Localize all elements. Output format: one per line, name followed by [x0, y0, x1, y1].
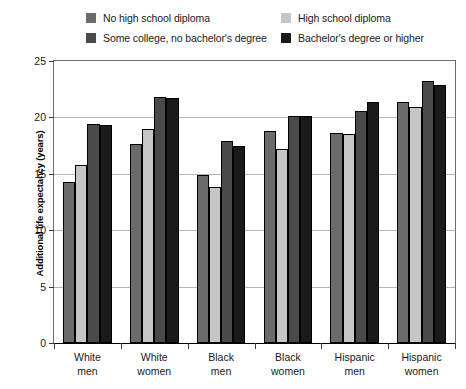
bar[interactable]	[154, 97, 166, 343]
bar[interactable]	[75, 165, 87, 343]
bar[interactable]	[63, 182, 75, 343]
y-tick-label: 5	[40, 281, 46, 293]
x-tick-mark	[54, 343, 55, 349]
bar[interactable]	[142, 129, 154, 343]
x-category-label: Hispanicwomen	[388, 351, 455, 378]
bar[interactable]	[397, 102, 409, 343]
x-tick-mark	[188, 343, 189, 349]
bar-group	[121, 61, 188, 343]
bar[interactable]	[233, 146, 245, 343]
x-tick-mark	[321, 343, 322, 349]
bar[interactable]	[197, 175, 209, 343]
y-tick-label: 10	[34, 224, 46, 236]
bar[interactable]	[288, 116, 300, 343]
y-tick-label: 15	[34, 168, 46, 180]
bar[interactable]	[422, 81, 434, 343]
bar[interactable]	[355, 111, 367, 343]
x-category-label: Blackwomen	[255, 351, 322, 378]
y-axis-title: Additional life expectancy (years)	[34, 69, 45, 339]
bar[interactable]	[166, 98, 178, 343]
bar[interactable]	[330, 133, 342, 343]
x-category-label: Whitewomen	[121, 351, 188, 378]
bar-group	[388, 61, 455, 343]
x-tick-mark	[121, 343, 122, 349]
bar[interactable]	[409, 107, 421, 343]
bar-group	[54, 61, 121, 343]
x-tick-mark	[455, 343, 456, 349]
bar[interactable]	[367, 102, 379, 343]
bar[interactable]	[130, 144, 142, 343]
bar[interactable]	[221, 141, 233, 343]
grouped-bar-chart: Additional life expectancy (years) 05101…	[0, 0, 466, 389]
bar[interactable]	[300, 116, 312, 343]
plot-area: 0510152025 WhitemenWhitewomenBlackmenBla…	[53, 60, 456, 344]
bar-group	[188, 61, 255, 343]
bar[interactable]	[264, 131, 276, 343]
x-tick-mark	[388, 343, 389, 349]
bar[interactable]	[276, 149, 288, 343]
bar[interactable]	[87, 124, 99, 343]
bar[interactable]	[434, 85, 446, 343]
bar[interactable]	[343, 134, 355, 343]
bar-series-container	[54, 61, 455, 343]
x-category-label: Hispanicmen	[321, 351, 388, 378]
x-category-label: Whitemen	[54, 351, 121, 378]
bar-group	[255, 61, 322, 343]
y-tick-label: 0	[40, 337, 46, 349]
x-tick-mark	[255, 343, 256, 349]
x-category-label: Blackmen	[188, 351, 255, 378]
y-tick-label: 25	[34, 55, 46, 67]
bar[interactable]	[209, 187, 221, 343]
bar[interactable]	[100, 125, 112, 343]
y-tick-label: 20	[34, 111, 46, 123]
bar-group	[321, 61, 388, 343]
